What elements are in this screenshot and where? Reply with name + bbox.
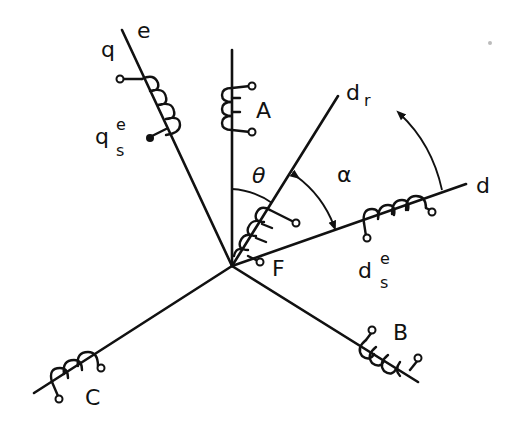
dr-axis — [232, 96, 338, 266]
rotation-arrow — [400, 114, 442, 190]
ds-e-subscript: s — [380, 273, 388, 292]
field-label: F — [272, 256, 285, 281]
theta-label: θ — [252, 163, 266, 188]
qs-e-base: q — [95, 124, 109, 149]
coil-field-f — [234, 208, 300, 266]
phase-a-label: A — [256, 98, 271, 123]
qs-e-superscript: e — [116, 115, 126, 134]
dr-label: d r — [346, 80, 371, 110]
ds-e-base: d — [358, 258, 372, 283]
phase-c-label: C — [85, 385, 100, 410]
coil-phase-a — [222, 83, 256, 136]
coil-ds-e — [364, 196, 436, 242]
d-axis-label: d — [476, 173, 490, 198]
speck — [488, 41, 492, 45]
ds-e-superscript: e — [380, 249, 390, 268]
winding-axes-diagram: q e q e s A d r θ α d d e s F B C — [0, 0, 524, 431]
qs-e-label: q e s — [95, 115, 126, 160]
alpha-arc — [296, 176, 334, 226]
q-axis-label: q — [101, 37, 115, 62]
e-axis-label: e — [137, 18, 151, 43]
dr-base: d — [346, 80, 360, 105]
phase-b-label: B — [393, 320, 408, 345]
qs-e-subscript: s — [116, 141, 124, 160]
dr-subscript: r — [364, 91, 371, 110]
ds-e-label: d e s — [358, 249, 390, 292]
alpha-label: α — [337, 162, 352, 187]
theta-arc — [232, 189, 272, 203]
phase-b-axis — [232, 266, 418, 382]
q-axis — [122, 30, 232, 266]
